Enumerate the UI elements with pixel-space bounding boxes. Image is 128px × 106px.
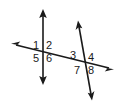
angle-label-2: 2 [46, 39, 52, 51]
angle-diagram: 1 2 3 4 5 6 7 8 [0, 0, 128, 106]
geometry-figure: 1 2 3 4 5 6 7 8 [0, 0, 128, 106]
angle-label-8: 8 [88, 64, 94, 76]
angle-label-5: 5 [33, 52, 39, 64]
angle-label-6: 6 [46, 52, 52, 64]
angle-label-7: 7 [74, 64, 80, 76]
angle-label-4: 4 [88, 51, 94, 63]
transversal-line [16, 45, 109, 68]
angle-label-1: 1 [33, 39, 39, 51]
angle-label-3: 3 [70, 49, 76, 61]
transversal-line-group [11, 42, 114, 72]
